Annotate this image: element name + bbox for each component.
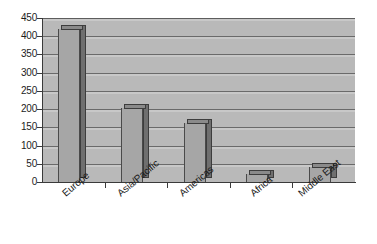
y-axis-tick-mark	[37, 182, 42, 183]
y-axis-tick-mark	[37, 73, 42, 74]
bar-top-face	[61, 25, 83, 30]
y-axis-tick-mark	[37, 127, 42, 128]
gridline-sheen	[42, 110, 355, 112]
x-axis-tick-mark	[230, 183, 231, 188]
y-axis-tick-mark	[37, 164, 42, 165]
x-axis-tick-mark	[105, 183, 106, 188]
gridline-sheen	[42, 74, 355, 76]
bar[interactable]	[58, 24, 80, 182]
y-axis-tick-label: 50	[7, 159, 37, 169]
gridline-sheen	[42, 55, 355, 57]
gridline-sheen	[42, 37, 355, 39]
y-axis-tick-mark	[37, 36, 42, 37]
bar-side-face	[80, 25, 86, 178]
bar-top-face	[187, 119, 209, 124]
y-axis-tick-label: 350	[7, 49, 37, 59]
gridline-sheen	[42, 19, 355, 21]
gridline-sheen	[42, 92, 355, 94]
bar-front-face	[58, 29, 80, 182]
y-axis-tick-label: 400	[7, 31, 37, 41]
y-axis-line	[42, 18, 43, 183]
y-axis-tick-label: 150	[7, 122, 37, 132]
y-axis-tick-label: 0	[7, 177, 37, 187]
y-axis-tick-label: 250	[7, 86, 37, 96]
plot-area	[42, 18, 355, 182]
bar-chart-figure: 050100150200250300350400450 EuropeAsia/P…	[0, 0, 377, 244]
y-axis-tick-label: 300	[7, 68, 37, 78]
y-axis-tick-label: 100	[7, 141, 37, 151]
y-axis-tick-mark	[37, 109, 42, 110]
y-axis-tick-mark	[37, 146, 42, 147]
y-axis-tick-mark	[37, 54, 42, 55]
y-axis-tick-mark	[37, 18, 42, 19]
y-axis-tick-label: 450	[7, 13, 37, 23]
y-axis-tick-label: 200	[7, 104, 37, 114]
x-axis-tick-mark	[167, 183, 168, 188]
y-axis-tick-mark	[37, 91, 42, 92]
x-axis-tick-mark	[292, 183, 293, 188]
bar-top-face	[124, 104, 146, 109]
